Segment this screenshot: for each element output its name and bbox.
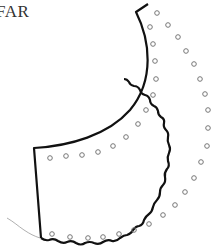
thread-tail [7,218,40,238]
scalloped-outer-edge [41,79,170,245]
pattern-piece-diagram [0,0,223,252]
stitch-holes [48,11,211,241]
inner-edge-outline [34,4,148,238]
